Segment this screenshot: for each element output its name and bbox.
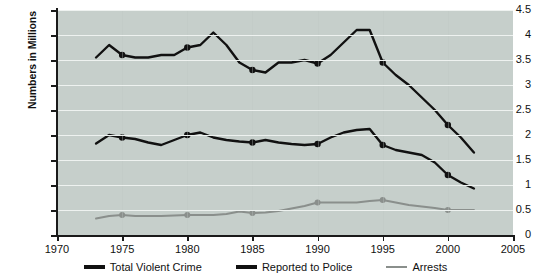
legend-item: Total Violent Crime <box>84 261 202 273</box>
gridline-horizontal <box>57 60 513 61</box>
y-tick-label: 1.5 <box>485 154 531 165</box>
y-tick-label: 2 <box>485 129 531 140</box>
y-tick-label: 3.5 <box>485 54 531 65</box>
x-tick-mark <box>252 236 254 241</box>
x-tick-label: 1985 <box>229 243 275 255</box>
gridline-vertical <box>252 10 253 235</box>
y-tick-mark <box>51 60 56 62</box>
gridline-horizontal <box>57 85 513 86</box>
y-tick-label: 0.5 <box>485 204 531 215</box>
y-tick-mark <box>51 35 56 37</box>
y-tick-mark <box>51 110 56 112</box>
x-tick-label: 1975 <box>99 243 145 255</box>
gridline-vertical <box>318 10 319 235</box>
y-tick-label: 4.5 <box>485 4 531 15</box>
legend-item: Arrests <box>386 261 447 273</box>
y-tick-label: 0 <box>485 229 531 240</box>
x-tick-label: 2005 <box>490 243 536 255</box>
gridline-horizontal <box>57 185 513 186</box>
x-tick-label: 1990 <box>295 243 341 255</box>
y-axis-line <box>56 8 58 237</box>
gridline-horizontal <box>57 110 513 111</box>
y-tick-mark <box>51 185 56 187</box>
gridline-vertical <box>187 10 188 235</box>
y-tick-mark <box>51 135 56 137</box>
gridline-horizontal <box>57 135 513 136</box>
y-tick-label: 1 <box>485 179 531 190</box>
chart-legend: Total Violent CrimeReported to PoliceArr… <box>0 258 531 276</box>
y-tick-mark <box>51 160 56 162</box>
gridline-vertical <box>122 10 123 235</box>
x-tick-mark <box>448 236 450 241</box>
legend-label: Reported to Police <box>262 261 353 273</box>
legend-line-swatch <box>386 266 407 268</box>
y-tick-label: 4 <box>485 29 531 40</box>
gridline-vertical <box>383 10 384 235</box>
gridline-horizontal <box>57 35 513 36</box>
legend-line-swatch <box>84 265 105 268</box>
gridline-horizontal <box>57 160 513 161</box>
legend-line-swatch <box>236 265 257 268</box>
series-line-reported-to-police <box>96 129 474 189</box>
gridline-horizontal <box>57 210 513 211</box>
x-tick-mark <box>383 236 385 241</box>
y-axis-title: Numbers in Millions <box>26 0 46 140</box>
x-axis-line <box>55 235 515 237</box>
y-tick-label: 3 <box>485 79 531 90</box>
y-tick-mark <box>51 85 56 87</box>
x-tick-label: 2000 <box>425 243 471 255</box>
y-tick-mark <box>51 10 56 12</box>
plot-canvas <box>57 10 513 235</box>
x-tick-label: 1970 <box>34 243 80 255</box>
gridline-vertical <box>448 10 449 235</box>
legend-item: Reported to Police <box>236 261 353 273</box>
legend-label: Total Violent Crime <box>110 261 202 273</box>
x-tick-mark <box>318 236 320 241</box>
legend-label: Arrests <box>412 261 447 273</box>
x-tick-label: 1980 <box>164 243 210 255</box>
x-tick-label: 1995 <box>360 243 406 255</box>
x-tick-mark <box>57 236 59 241</box>
plot-area <box>57 10 513 235</box>
gridline-horizontal <box>57 10 513 11</box>
y-tick-label: 2.5 <box>485 104 531 115</box>
x-tick-mark <box>122 236 124 241</box>
y-tick-mark <box>51 210 56 212</box>
y-tick-mark <box>51 235 56 237</box>
x-tick-mark <box>513 236 515 241</box>
x-tick-mark <box>187 236 189 241</box>
